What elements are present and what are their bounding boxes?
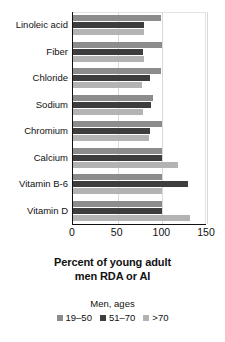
bar-group	[73, 92, 206, 119]
bar	[73, 121, 162, 127]
bar-group	[73, 198, 206, 225]
legend-label: >70	[152, 312, 168, 323]
gridline	[207, 12, 208, 224]
bar	[73, 82, 142, 88]
category-axis-labels: Linoleic acidFiberChlorideSodiumChromium…	[0, 12, 70, 224]
category-label: Calcium	[34, 145, 68, 172]
plot-axes	[72, 12, 206, 224]
bar-group	[73, 12, 206, 39]
bar	[73, 188, 162, 194]
legend-label: 19–50	[66, 312, 92, 323]
x-tick-label: 50	[111, 226, 123, 238]
x-tick-label: 0	[69, 226, 75, 238]
bar	[73, 109, 143, 115]
legend-swatch	[57, 315, 63, 321]
category-label: Sodium	[36, 92, 68, 119]
category-label: Chloride	[33, 65, 68, 92]
bar	[73, 95, 153, 101]
bar-group	[73, 39, 206, 66]
category-label: Chromium	[24, 118, 68, 145]
x-axis-tick-labels: 050100150	[0, 226, 225, 244]
bar-group	[73, 118, 206, 145]
bar	[73, 155, 162, 161]
bar	[73, 42, 162, 48]
x-tick-label: 150	[197, 226, 215, 238]
x-axis-title-line1: Percent of young adult	[0, 256, 225, 270]
bar	[73, 148, 162, 154]
bar	[73, 181, 188, 187]
bar	[73, 68, 161, 74]
plot-area: Linoleic acidFiberChlorideSodiumChromium…	[0, 12, 225, 242]
category-label: Vitamin B-6	[19, 171, 68, 198]
bar-chart-figure: Linoleic acidFiberChlorideSodiumChromium…	[0, 0, 225, 342]
legend-label: 51–70	[109, 312, 135, 323]
bar	[73, 56, 144, 62]
legend: Men, ages 19–5051–70>70	[30, 298, 195, 323]
category-label: Vitamin D	[27, 198, 68, 225]
bar	[73, 75, 150, 81]
legend-swatch	[143, 315, 149, 321]
category-label: Linoleic acid	[16, 12, 68, 39]
bar	[73, 201, 162, 207]
bar	[73, 49, 143, 55]
legend-swatch	[100, 315, 106, 321]
bar	[73, 15, 161, 21]
bar	[73, 215, 190, 221]
bar	[73, 22, 144, 28]
bar	[73, 174, 162, 180]
bar	[73, 162, 178, 168]
bar-group	[73, 65, 206, 92]
x-axis-title: Percent of young adult men RDA or AI	[0, 256, 225, 283]
bar-group	[73, 145, 206, 172]
legend-items: 19–5051–70>70	[30, 312, 195, 323]
bar-group	[73, 171, 206, 198]
x-tick-label: 100	[153, 226, 171, 238]
bar	[73, 135, 149, 141]
bar	[73, 208, 162, 214]
legend-item: >70	[143, 312, 168, 323]
legend-item: 51–70	[100, 312, 135, 323]
legend-title: Men, ages	[30, 298, 195, 309]
category-label: Fiber	[46, 39, 68, 66]
bar	[73, 128, 150, 134]
bar	[73, 102, 151, 108]
bar	[73, 29, 144, 35]
legend-item: 19–50	[57, 312, 92, 323]
x-axis-title-line2: men RDA or AI	[0, 270, 225, 284]
